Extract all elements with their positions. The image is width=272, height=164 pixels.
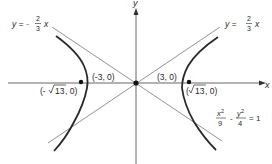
svg-text:, 0): , 0) bbox=[65, 86, 77, 96]
origin-point bbox=[133, 80, 138, 85]
hyperbola-equation-label: x 2 9 - y 2 4 = 1 bbox=[216, 108, 261, 128]
svg-text:, 0): , 0) bbox=[205, 86, 217, 96]
svg-text:3: 3 bbox=[247, 25, 251, 32]
svg-text:13: 13 bbox=[55, 86, 65, 96]
hyperbola-diagram: y x y = - 2 3 x y = 2 3 x (-3, 0) (3, 0)… bbox=[0, 0, 272, 164]
svg-text:2: 2 bbox=[36, 15, 40, 22]
svg-text:y =: y = bbox=[224, 19, 237, 29]
x-axis-label: x bbox=[264, 80, 270, 90]
svg-text:-: - bbox=[230, 114, 233, 123]
svg-text:2: 2 bbox=[247, 15, 251, 22]
y-axis-arrow-icon bbox=[134, 8, 139, 15]
focus-left-point bbox=[79, 80, 83, 84]
svg-text:(: ( bbox=[186, 86, 189, 96]
svg-text:3: 3 bbox=[36, 25, 40, 32]
asymptote-positive-label: y = 2 3 x bbox=[224, 15, 260, 32]
svg-text:2: 2 bbox=[241, 108, 244, 114]
svg-text:y = -: y = - bbox=[11, 19, 29, 29]
svg-text:x: x bbox=[43, 19, 49, 29]
svg-text:9: 9 bbox=[218, 119, 222, 128]
asymptote-negative-label: y = - 2 3 x bbox=[11, 15, 49, 32]
focus-left-label: (- 13 , 0) bbox=[40, 85, 77, 96]
y-axis-label: y bbox=[132, 0, 138, 8]
svg-text:2: 2 bbox=[221, 108, 224, 114]
svg-text:4: 4 bbox=[238, 119, 242, 128]
svg-text:x: x bbox=[254, 19, 260, 29]
svg-text:(-: (- bbox=[40, 86, 46, 96]
svg-text:13: 13 bbox=[195, 86, 205, 96]
focus-right-point bbox=[187, 80, 191, 84]
vertex-left-label: (-3, 0) bbox=[92, 72, 115, 82]
focus-right-label: ( 13 , 0) bbox=[186, 85, 217, 96]
vertex-right-label: (3, 0) bbox=[157, 72, 177, 82]
svg-text:= 1: = 1 bbox=[249, 114, 261, 123]
